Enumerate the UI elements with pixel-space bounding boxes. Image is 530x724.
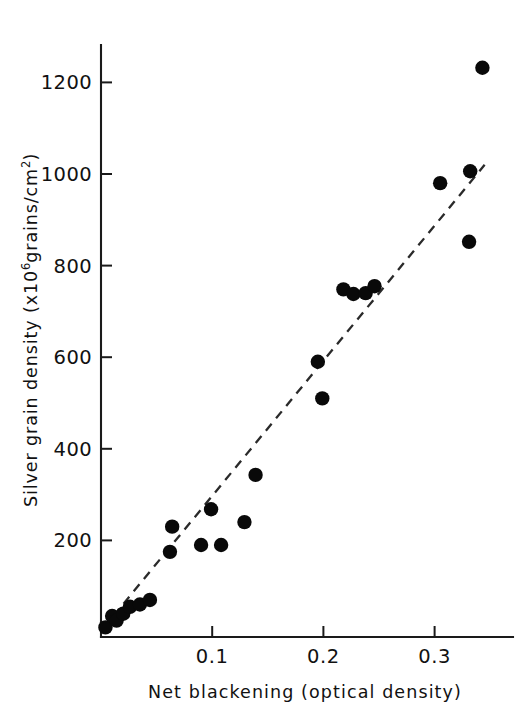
data-point bbox=[367, 279, 381, 293]
data-point bbox=[165, 519, 179, 533]
data-point bbox=[214, 538, 228, 552]
data-point bbox=[237, 515, 251, 529]
x-tick-label: 0.1 bbox=[196, 645, 229, 668]
data-point bbox=[248, 468, 262, 482]
x-tick-label: 0.3 bbox=[418, 645, 451, 668]
data-point bbox=[311, 355, 325, 369]
x-axis-label: Net blackening (optical density) bbox=[148, 682, 462, 702]
figure-scatter-plot: 20040060080010001200 0.10.20.3 Silver gr… bbox=[0, 0, 530, 724]
data-point bbox=[433, 176, 447, 190]
x-tick-label: 0.2 bbox=[307, 645, 340, 668]
data-point bbox=[163, 545, 177, 559]
y-tick-label: 800 bbox=[54, 255, 92, 278]
data-point bbox=[462, 235, 476, 249]
axes bbox=[101, 45, 513, 637]
x-axis-label-container: Net blackening (optical density) bbox=[95, 682, 515, 702]
data-point bbox=[143, 593, 157, 607]
x-axis-ticks: 0.10.20.3 bbox=[196, 626, 451, 668]
trend-line bbox=[103, 165, 484, 628]
y-tick-label: 400 bbox=[54, 438, 92, 461]
trend-line-group bbox=[103, 165, 484, 628]
data-point bbox=[346, 287, 360, 301]
y-tick-label: 200 bbox=[54, 529, 92, 552]
y-tick-label: 600 bbox=[54, 346, 92, 369]
data-point bbox=[475, 61, 489, 75]
y-tick-label: 1200 bbox=[41, 71, 92, 94]
data-point bbox=[315, 391, 329, 405]
y-tick-label: 1000 bbox=[41, 163, 92, 186]
data-point bbox=[463, 164, 477, 178]
data-point bbox=[194, 538, 208, 552]
data-point bbox=[204, 502, 218, 516]
plot-canvas: 20040060080010001200 0.10.20.3 bbox=[0, 0, 530, 724]
data-points-group bbox=[98, 61, 489, 635]
